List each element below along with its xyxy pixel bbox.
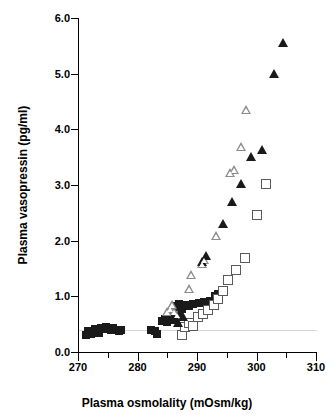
data-point-open-triangle (241, 105, 251, 114)
y-tick-5.0 (71, 74, 78, 75)
x-tick-label-290: 290 (177, 362, 217, 373)
y-tick-3.0 (71, 185, 78, 186)
x-tick-290 (197, 353, 198, 361)
data-point-filled-triangle (218, 219, 228, 228)
y-tick-label-4.0: 4.0 (30, 124, 70, 135)
x-tick-270 (78, 353, 79, 361)
scatter-chart-figure: Plasma vasopressin (pg/ml) 0.01.02.03.04… (0, 0, 334, 420)
x-axis-title: Plasma osmolality (mOsm/kg) (0, 396, 334, 410)
x-tick-300 (257, 353, 258, 361)
x-minor-tick-305 (286, 353, 287, 358)
y-tick-2.0 (71, 241, 78, 242)
data-point-open-triangle (236, 142, 246, 151)
x-tick-label-280: 280 (118, 362, 158, 373)
y-tick-label-5.0: 5.0 (30, 69, 70, 80)
x-tick-label-270: 270 (58, 362, 98, 373)
y-tick-label-0.0: 0.0 (30, 347, 70, 358)
x-tick-280 (138, 353, 139, 361)
data-point-filled-triangle (246, 152, 256, 161)
x-tick-label-300: 300 (237, 362, 277, 373)
data-point-open-triangle (184, 284, 194, 293)
y-tick-1.0 (71, 296, 78, 297)
y-tick-4.0 (71, 129, 78, 130)
data-point-filled-triangle (236, 179, 246, 188)
data-point-open-square (240, 253, 250, 263)
x-tick-310 (316, 353, 317, 361)
y-tick-label-6.0: 6.0 (30, 13, 70, 24)
plot-area (78, 18, 316, 352)
x-tick-label-310: 310 (296, 362, 334, 373)
x-minor-tick-295 (227, 353, 228, 358)
y-tick-6.0 (71, 18, 78, 19)
y-tick-label-2.0: 2.0 (30, 236, 70, 247)
x-minor-tick-275 (108, 353, 109, 358)
data-point-open-square (223, 275, 233, 285)
y-tick-0.0 (71, 352, 78, 353)
y-tick-label-3.0: 3.0 (30, 180, 70, 191)
data-point-filled-square (117, 326, 125, 334)
data-point-filled-triangle (269, 69, 279, 78)
data-point-open-triangle (211, 231, 221, 240)
data-point-open-square (218, 286, 228, 296)
data-point-filled-triangle (227, 197, 237, 206)
data-point-open-triangle (229, 165, 239, 174)
data-point-open-square (261, 179, 271, 189)
y-axis-title: Plasma vasopressin (pg/ml) (16, 65, 30, 305)
data-point-filled-triangle (278, 38, 288, 47)
data-point-open-triangle (186, 270, 196, 279)
x-minor-tick-285 (167, 353, 168, 358)
y-tick-label-1.0: 1.0 (30, 291, 70, 302)
data-point-open-square (231, 265, 241, 275)
data-point-filled-triangle (257, 145, 267, 154)
data-point-open-square (252, 210, 262, 220)
data-point-filled-square (153, 330, 161, 338)
